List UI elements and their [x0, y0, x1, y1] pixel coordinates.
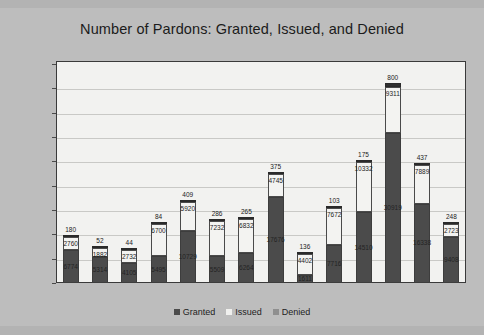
bar-value-label: 6832: [239, 223, 253, 230]
stacked-bar: 5218825314: [92, 246, 108, 283]
stacked-bar: 800931130919: [385, 83, 401, 283]
stacked-bar: 437788916338: [414, 163, 430, 283]
bar-value-label: 7672: [327, 212, 341, 219]
y-axis-tick-mark: [52, 283, 56, 284]
bar-value-label: 14510: [354, 245, 372, 252]
bar-value-label: 4745: [268, 178, 282, 185]
bar-segment: 4745: [268, 174, 284, 197]
bar-value-label: 7716: [327, 261, 341, 268]
bar-segment: 2760: [63, 237, 79, 250]
bar-segment: 9311: [385, 87, 401, 132]
bar-value-label: 2732: [122, 254, 136, 261]
granted-swatch: [174, 309, 180, 315]
bar-value-label: 2723: [444, 228, 458, 235]
bar-segment: 5920: [180, 202, 196, 231]
bar-segment: 9408: [443, 237, 459, 283]
bar-value-label: 175: [358, 152, 369, 159]
stacked-bar: 26568326264: [238, 217, 254, 283]
bar-segment: 4402: [297, 254, 313, 275]
stacked-bar: 8467005495: [151, 222, 167, 283]
bar-value-label: 17676: [267, 237, 285, 244]
bar-value-label: 1611: [298, 276, 312, 283]
stacked-bar: 1751033214510: [356, 160, 372, 283]
bar-value-label: 286: [212, 211, 223, 218]
bar-value-label: 409: [182, 192, 193, 199]
bar-value-label: 7232: [210, 225, 224, 232]
bar-value-label: 6774: [63, 264, 77, 271]
bar-value-label: 6700: [151, 228, 165, 235]
bar-value-label: 103: [329, 198, 340, 205]
legend-item[interactable]: Issued: [226, 307, 262, 317]
chart-figure: Number of Pardons: Granted, Issued, and …: [0, 0, 484, 335]
bar-segment: 7716: [326, 245, 342, 283]
bar-segment: 16338: [414, 204, 430, 284]
bar-value-label: 248: [446, 214, 457, 221]
bar-value-label: 265: [241, 209, 252, 216]
bar-segment: 17676: [268, 197, 284, 283]
bar-segment: 5495: [151, 256, 167, 283]
bar-segment: 1882: [92, 248, 108, 257]
bar-value-label: 5495: [151, 267, 165, 274]
bar-value-label: 44: [126, 240, 133, 247]
figure-bottom-edge: [0, 326, 484, 335]
bar-value-label: 10332: [354, 166, 372, 173]
bar-segment: 14510: [356, 212, 372, 283]
bar-value-label: 136: [299, 244, 310, 251]
legend-label: Issued: [235, 307, 262, 317]
bar-value-label: 6264: [239, 265, 253, 272]
bar-segment: 10332: [356, 162, 372, 212]
bar-value-label: 437: [417, 155, 428, 162]
bar-value-label: 5509: [210, 267, 224, 274]
bar-segment: 5314: [92, 257, 108, 283]
bar-segment: 5509: [209, 256, 225, 283]
bar-value-label: 4105: [122, 270, 136, 277]
bar-value-label: 16338: [413, 240, 431, 247]
legend-label: Granted: [183, 307, 216, 317]
bar-segment: 4105: [121, 263, 137, 283]
issued-swatch: [226, 309, 232, 315]
bar-value-label: 180: [65, 227, 76, 234]
legend-item[interactable]: Denied: [273, 307, 311, 317]
bar-value-label: 30919: [384, 205, 402, 212]
bar-value-label: 5920: [181, 206, 195, 213]
bar-segment: 1611: [297, 275, 313, 283]
bar-segment: 6832: [238, 219, 254, 252]
bar-segment: 10729: [180, 231, 196, 283]
bar-value-label: 52: [96, 238, 103, 245]
chart-title: Number of Pardons: Granted, Issued, and …: [0, 21, 484, 37]
bar-segment: 2732: [121, 250, 137, 263]
bar-segment: 2723: [443, 224, 459, 237]
stacked-bar: 4427324105: [121, 248, 137, 283]
bar-value-label: 84: [155, 214, 162, 221]
y-axis: [0, 61, 52, 283]
bar-value-label: 800: [387, 75, 398, 82]
denied-swatch: [273, 309, 279, 315]
bar-segment: 7672: [326, 208, 342, 245]
stacked-bar: 10376727716: [326, 206, 342, 283]
bar-value-label: 9311: [386, 91, 400, 98]
stacked-bar: 375474517676: [268, 172, 284, 283]
stacked-bar: 13644021611: [297, 252, 313, 283]
bar-value-label: 375: [270, 164, 281, 171]
stacked-bar: 28672325509: [209, 219, 225, 283]
bar-value-label: 9408: [444, 257, 458, 264]
bar-segment: 7232: [209, 221, 225, 256]
stacked-bar: 24827239408: [443, 222, 459, 283]
bar-segment: 7889: [414, 165, 430, 203]
plot-wrap: 1802760677452188253144427324105846700549…: [56, 61, 466, 283]
bar-value-label: 4402: [298, 258, 312, 265]
figure-top-edge: [0, 0, 484, 8]
legend-label: Denied: [282, 307, 311, 317]
bar-value-label: 2760: [63, 241, 77, 248]
bar-value-label: 7889: [415, 169, 429, 176]
bar-series-layer: 1802760677452188253144427324105846700549…: [56, 61, 466, 283]
bar-segment: 6774: [63, 250, 79, 283]
bar-segment: 6264: [238, 253, 254, 283]
bar-segment: 6700: [151, 224, 167, 257]
chart-legend: GrantedIssuedDenied: [0, 307, 484, 317]
stacked-bar: 18027606774: [63, 235, 79, 283]
legend-item[interactable]: Granted: [174, 307, 216, 317]
bar-value-label: 10729: [179, 254, 197, 261]
bar-segment: 30919: [385, 133, 401, 283]
x-axis: [56, 287, 466, 301]
